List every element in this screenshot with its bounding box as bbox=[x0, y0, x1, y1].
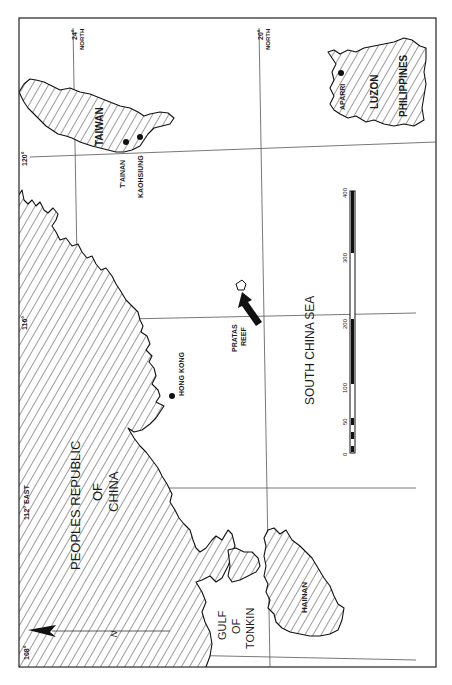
lat-24-dir: NORTH bbox=[79, 29, 85, 50]
kaohsiung-dot bbox=[137, 134, 143, 140]
aparri-dot bbox=[338, 70, 344, 76]
taiwan-label: TAIWAN bbox=[94, 107, 105, 146]
china-label-line3: CHINA bbox=[106, 471, 121, 512]
tainan-dot bbox=[123, 139, 129, 145]
scale-tick-400: 400 bbox=[342, 187, 348, 198]
sea-label: SOUTH CHINA SEA bbox=[303, 296, 317, 405]
scale-tick-200: 200 bbox=[342, 318, 348, 329]
lat-24-label: 24° bbox=[71, 29, 78, 40]
gulf-label-line3: TONKIN bbox=[244, 608, 256, 649]
pratas-label-line2: REEF bbox=[240, 327, 247, 346]
luzon-label: LUZON bbox=[369, 75, 380, 109]
north-symbol: N bbox=[109, 630, 119, 637]
scale-tick-300: 300 bbox=[342, 252, 348, 263]
gulf-island bbox=[228, 548, 260, 582]
hong-kong-label: HONG KONG bbox=[178, 352, 185, 397]
scale-tick-50: 50 bbox=[342, 418, 348, 425]
china-landmass bbox=[19, 190, 235, 667]
philippines-label: PHILIPPINES bbox=[398, 54, 409, 117]
gulf-label-line1: GULF bbox=[216, 610, 228, 640]
kaohsiung-label: KAOHSIUNG bbox=[137, 155, 144, 198]
scale-tick-0: 0 bbox=[342, 452, 348, 456]
scale-tick-100: 100 bbox=[342, 382, 348, 393]
pratas-label-line1: PRATAS bbox=[231, 324, 238, 352]
lon-112-label: 112° EAST bbox=[23, 485, 30, 520]
tainan-label: T'AINAN bbox=[119, 160, 126, 188]
map-canvas: PEOPLES REPUBLIC OF CHINA TAIWAN T'AINAN… bbox=[0, 0, 452, 685]
arrow-icon bbox=[238, 292, 262, 326]
hainan-label: HAINAN bbox=[300, 582, 309, 613]
pratas-reef-island bbox=[236, 280, 246, 290]
china-label-line2: OF bbox=[90, 483, 105, 501]
gulf-label-line2: OF bbox=[230, 618, 242, 634]
lat-20-dir: NORTH bbox=[265, 29, 271, 50]
lon-120-label: 120° bbox=[21, 151, 28, 166]
aparri-label: APARRI bbox=[339, 84, 346, 110]
china-label-line1: PEOPLES REPUBLIC bbox=[68, 441, 83, 570]
hong-kong-dot bbox=[169, 393, 175, 399]
lat-20-label: 20° bbox=[257, 29, 264, 40]
lon-116-label: 116° bbox=[21, 316, 28, 330]
scale-bar bbox=[350, 191, 355, 453]
lon-108-label: 108° bbox=[23, 645, 30, 660]
